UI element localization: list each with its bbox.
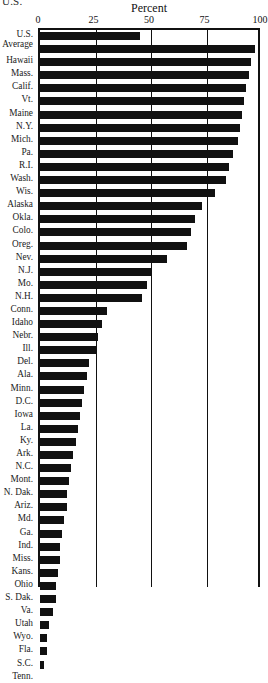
- bar: [40, 386, 84, 394]
- category-label: Maine: [0, 107, 36, 120]
- gridline-75: [207, 30, 208, 587]
- category-label: Mass.: [0, 67, 36, 80]
- bar: [40, 176, 226, 184]
- category-label: Nev.: [0, 251, 36, 264]
- bar-row: [40, 475, 258, 488]
- category-label: Wyo.: [0, 630, 36, 643]
- x-axis-tick-labels: 0255075100: [0, 14, 266, 26]
- bar: [40, 530, 62, 538]
- category-labels: U.S.AverageHawaiiMass.Calif.Vt.MaineN.Y.…: [0, 28, 36, 683]
- bar-row: [40, 226, 258, 239]
- plot-area: [38, 28, 260, 587]
- category-label: Ky.: [0, 434, 36, 447]
- bar-row: [40, 501, 258, 514]
- category-label: Minn.: [0, 382, 36, 395]
- bar: [40, 228, 191, 236]
- bar-row: [40, 292, 258, 305]
- category-label: Colo.: [0, 224, 36, 237]
- bar-row: [40, 554, 258, 567]
- bar-row: [40, 187, 258, 200]
- category-label: Kans.: [0, 565, 36, 578]
- bar-row: [40, 449, 258, 462]
- bar: [40, 372, 87, 380]
- bar-row: [40, 200, 258, 213]
- category-label: Iowa: [0, 408, 36, 421]
- bar-row: [40, 397, 258, 410]
- bar-row: [40, 436, 258, 449]
- bar: [40, 242, 187, 250]
- category-label: Ark.: [0, 447, 36, 460]
- bar: [40, 464, 71, 472]
- bar-row: [40, 266, 258, 279]
- bar: [40, 189, 215, 197]
- bar-row: [40, 253, 258, 266]
- bar-row: [40, 619, 258, 632]
- category-label: Oreg.: [0, 238, 36, 251]
- category-label: S. Dak.: [0, 591, 36, 604]
- bar: [40, 32, 140, 40]
- category-label: Wash.: [0, 172, 36, 185]
- bar-row: [40, 213, 258, 226]
- category-label: Calif.: [0, 80, 36, 93]
- gridline-50: [151, 30, 152, 587]
- bar-row: [40, 384, 258, 397]
- category-label: Alaska: [0, 198, 36, 211]
- bar: [40, 150, 233, 158]
- gridline-25: [96, 30, 97, 587]
- bar-row: [40, 95, 258, 108]
- bar-row: [40, 632, 258, 645]
- bar-row: [40, 148, 258, 161]
- bar: [40, 124, 240, 132]
- bar: [40, 595, 56, 603]
- bar-row: [40, 318, 258, 331]
- bar-row: [40, 344, 258, 357]
- category-label: N.C.: [0, 460, 36, 473]
- bar-row: [40, 43, 258, 56]
- bar: [40, 359, 89, 367]
- category-label: Mo.: [0, 277, 36, 290]
- category-label: Utah: [0, 617, 36, 630]
- bar-row: [40, 541, 258, 554]
- bar: [40, 425, 78, 433]
- category-label: Del.: [0, 355, 36, 368]
- bar-row: [40, 174, 258, 187]
- bar: [40, 163, 229, 171]
- category-label: N.H.: [0, 290, 36, 303]
- bar: [40, 661, 44, 669]
- category-label: Ariz.: [0, 499, 36, 512]
- bar: [40, 111, 242, 119]
- bar: [40, 634, 47, 642]
- category-label: Vt.: [0, 93, 36, 106]
- bar: [40, 608, 53, 616]
- bar: [40, 399, 82, 407]
- category-label: Idaho: [0, 316, 36, 329]
- bar-row: [40, 423, 258, 436]
- bar-row: [40, 462, 258, 475]
- bar-row: [40, 109, 258, 122]
- bar-row: [40, 122, 258, 135]
- bar: [40, 202, 202, 210]
- bar-row: [40, 410, 258, 423]
- bar: [40, 84, 246, 92]
- x-tick-25: 25: [89, 14, 99, 25]
- category-label: Mont.: [0, 473, 36, 486]
- bar: [40, 71, 249, 79]
- category-label: Ohio: [0, 578, 36, 591]
- category-label: N. Dak.: [0, 486, 36, 499]
- category-label: Wis.: [0, 185, 36, 198]
- bar: [40, 58, 251, 66]
- x-tick-0: 0: [36, 14, 41, 25]
- bar: [40, 516, 64, 524]
- category-label: Hawaii: [0, 54, 36, 67]
- bar-row: [40, 30, 258, 43]
- bar-row: [40, 305, 258, 318]
- category-label: Miss.: [0, 552, 36, 565]
- category-label: Ga.: [0, 526, 36, 539]
- bar-row: [40, 69, 258, 82]
- category-label: Va.: [0, 604, 36, 617]
- category-label: Nebr.: [0, 329, 36, 342]
- bar: [40, 281, 147, 289]
- bar-row: [40, 514, 258, 527]
- bar-row: [40, 279, 258, 292]
